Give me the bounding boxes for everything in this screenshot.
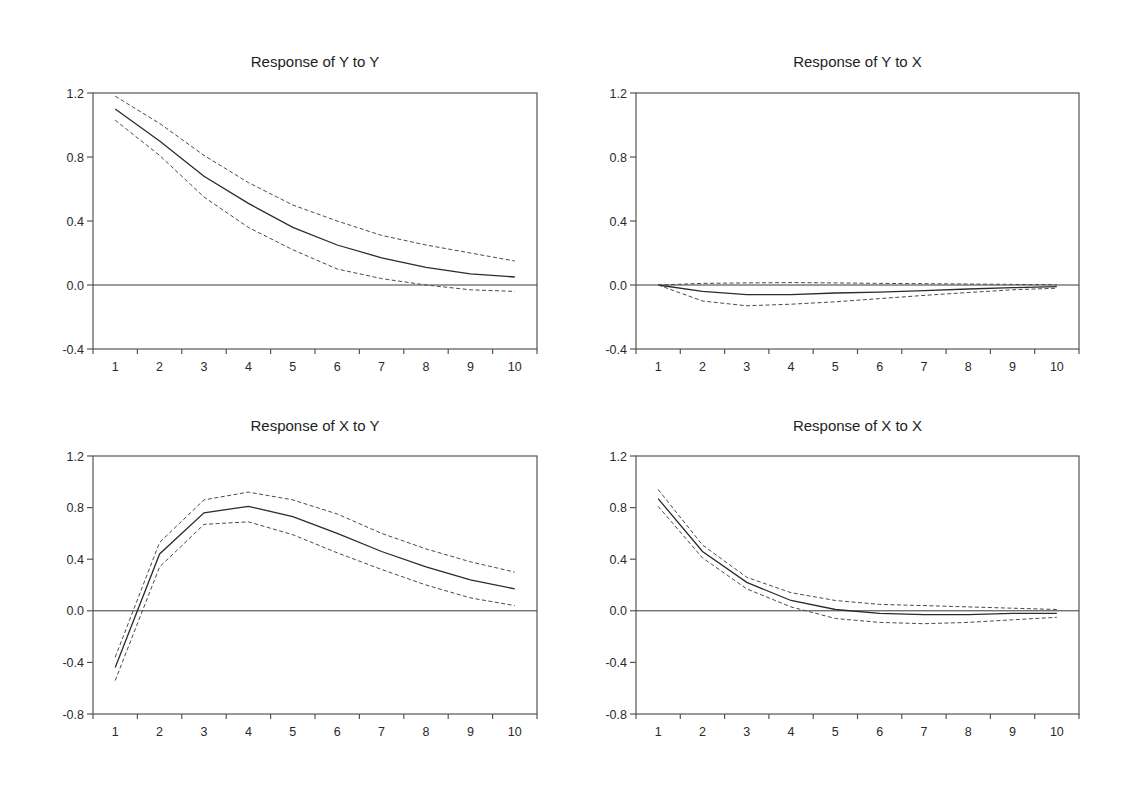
x-tick-label: 6 [876, 360, 883, 374]
confidence-band-line [115, 120, 515, 291]
x-tick-label: 2 [699, 360, 706, 374]
confidence-band-line [658, 490, 1057, 610]
y-tick-label: 0.0 [610, 604, 627, 618]
y-tick-label: 0.4 [610, 215, 627, 229]
x-tick-label: 7 [378, 360, 385, 374]
x-tick-label: 7 [920, 725, 927, 739]
x-tick-label: 5 [832, 725, 839, 739]
y-tick-label: -0.4 [605, 343, 627, 357]
x-tick-label: 4 [245, 725, 252, 739]
x-tick-label: 10 [508, 360, 522, 374]
y-tick-label: 1.2 [67, 450, 84, 464]
x-tick-label: 10 [1050, 360, 1064, 374]
plot-area: 1.20.80.40.0-0.4-0.812345678910 [62, 450, 537, 740]
confidence-band-line [115, 522, 515, 681]
y-tick-label: -0.4 [605, 656, 627, 670]
plot-area: 1.20.80.40.0-0.412345678910 [605, 87, 1079, 375]
plot-area: 1.20.80.40.0-0.412345678910 [62, 87, 537, 375]
y-tick-label: 0.0 [67, 279, 84, 293]
y-tick-label: 0.4 [67, 215, 84, 229]
y-tick-label: -0.4 [62, 343, 84, 357]
x-tick-label: 1 [655, 360, 662, 374]
x-tick-label: 3 [201, 725, 208, 739]
y-tick-label: 0.0 [610, 279, 627, 293]
panel-response-y-to-x: Response of Y to X 1.20.80.40.0-0.412345… [605, 53, 1079, 374]
y-tick-label: 0.4 [610, 553, 627, 567]
y-tick-label: 0.8 [67, 151, 84, 165]
x-tick-label: 1 [112, 360, 119, 374]
x-tick-label: 8 [965, 360, 972, 374]
x-tick-label: 6 [334, 360, 341, 374]
x-tick-label: 2 [156, 725, 163, 739]
y-tick-label: 1.2 [67, 87, 84, 101]
panel-title: Response of Y to X [793, 53, 922, 70]
x-tick-label: 9 [1009, 725, 1016, 739]
panel-title: Response of X to Y [251, 417, 380, 434]
x-tick-label: 1 [112, 725, 119, 739]
x-tick-label: 7 [378, 725, 385, 739]
x-tick-label: 9 [467, 360, 474, 374]
y-tick-label: 0.8 [67, 501, 84, 515]
x-tick-label: 3 [743, 360, 750, 374]
x-tick-label: 2 [699, 725, 706, 739]
y-tick-label: 0.8 [610, 151, 627, 165]
x-tick-label: 3 [743, 725, 750, 739]
x-tick-label: 5 [289, 725, 296, 739]
x-tick-label: 10 [1050, 725, 1064, 739]
response-line [658, 285, 1057, 295]
x-tick-label: 7 [920, 360, 927, 374]
x-tick-label: 8 [965, 725, 972, 739]
panel-response-y-to-y: Response of Y to Y 1.20.80.40.0-0.412345… [62, 53, 537, 374]
plot-frame [93, 456, 537, 714]
x-tick-label: 5 [289, 360, 296, 374]
x-tick-label: 9 [1009, 360, 1016, 374]
panel-response-x-to-x: Response of X to X 1.20.80.40.0-0.4-0.81… [605, 417, 1079, 739]
response-line [658, 499, 1057, 615]
y-tick-label: 1.2 [610, 450, 627, 464]
y-tick-label: -0.8 [605, 708, 627, 722]
x-tick-label: 9 [467, 725, 474, 739]
panel-title: Response of Y to Y [251, 53, 379, 70]
x-tick-label: 1 [655, 725, 662, 739]
x-tick-label: 8 [423, 725, 430, 739]
x-tick-label: 4 [788, 725, 795, 739]
x-tick-label: 3 [201, 360, 208, 374]
panel-title: Response of X to X [793, 417, 922, 434]
response-line [115, 109, 515, 277]
plot-area: 1.20.80.40.0-0.4-0.812345678910 [605, 450, 1079, 740]
y-tick-label: -0.4 [62, 656, 84, 670]
confidence-band-line [658, 506, 1057, 623]
response-line [115, 506, 515, 667]
x-tick-label: 4 [788, 360, 795, 374]
panel-response-x-to-y: Response of X to Y 1.20.80.40.0-0.4-0.81… [62, 417, 537, 739]
x-tick-label: 4 [245, 360, 252, 374]
plot-frame [636, 456, 1079, 714]
y-tick-label: 0.0 [67, 604, 84, 618]
y-tick-label: 1.2 [610, 87, 627, 101]
plot-frame [93, 93, 537, 349]
x-tick-label: 6 [876, 725, 883, 739]
x-tick-label: 5 [832, 360, 839, 374]
x-tick-label: 2 [156, 360, 163, 374]
y-tick-label: 0.4 [67, 553, 84, 567]
y-tick-label: 0.8 [610, 501, 627, 515]
plot-frame [636, 93, 1079, 349]
y-tick-label: -0.8 [62, 708, 84, 722]
x-tick-label: 10 [508, 725, 522, 739]
x-tick-label: 8 [423, 360, 430, 374]
x-tick-label: 6 [334, 725, 341, 739]
impulse-response-figure: Response of Y to Y 1.20.80.40.0-0.412345… [0, 0, 1135, 787]
